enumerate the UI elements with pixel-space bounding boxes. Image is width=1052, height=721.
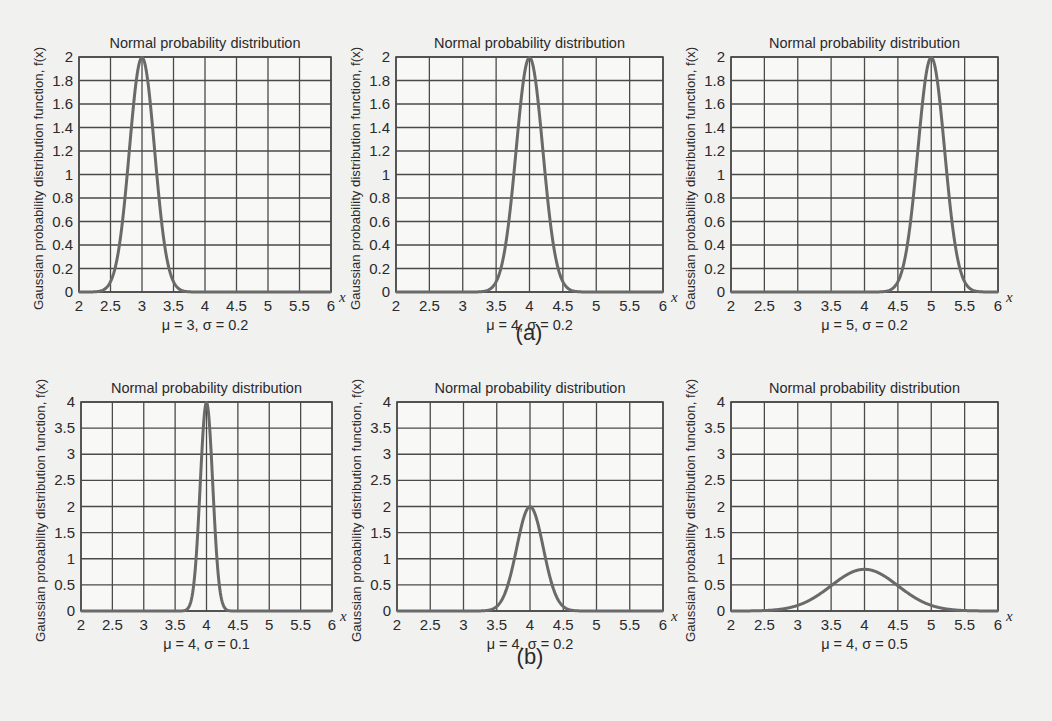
parameter-caption: μ = 5, σ = 0.2 <box>821 317 908 333</box>
y-tick-label: 1.5 <box>54 524 75 541</box>
x-tick-label: 3 <box>138 297 146 314</box>
x-tick-label: 2.5 <box>754 616 775 633</box>
y-tick-label: 1.4 <box>704 119 725 136</box>
y-tick-label: 0 <box>65 283 73 300</box>
x-tick-label: 5.5 <box>290 616 311 633</box>
y-tick-label: 0.8 <box>704 189 725 206</box>
x-tick-label: 3.5 <box>821 616 842 633</box>
x-tick-label: 4 <box>526 616 534 633</box>
y-tick-label: 1 <box>65 166 73 183</box>
y-tick-label: 0.2 <box>52 260 73 277</box>
x-axis-label: x <box>338 289 346 305</box>
x-tick-label: 2 <box>393 616 401 633</box>
y-tick-label: 1.6 <box>369 95 390 112</box>
chart-title: Normal probability distribution <box>769 380 960 396</box>
y-tick-label: 3 <box>67 445 75 462</box>
x-tick-label: 6 <box>659 616 667 633</box>
y-axis-label: Gaussian probability distribution functi… <box>33 379 48 642</box>
panel-label-a: (a) <box>516 320 543 346</box>
plots-canvas: 22.533.544.555.5600.20.40.60.811.21.41.6… <box>0 0 1052 721</box>
y-tick-label: 0.5 <box>704 576 725 593</box>
x-tick-label: 4.5 <box>887 297 908 314</box>
y-tick-label: 4 <box>67 393 75 410</box>
x-tick-label: 5.5 <box>954 297 975 314</box>
y-tick-label: 0 <box>382 283 390 300</box>
y-tick-label: 1 <box>383 550 391 567</box>
y-tick-label: 0.8 <box>52 189 73 206</box>
x-tick-label: 5 <box>592 616 600 633</box>
y-tick-label: 1 <box>67 550 75 567</box>
chart-title: Normal probability distribution <box>434 35 625 51</box>
x-tick-label: 2.5 <box>420 616 441 633</box>
y-tick-label: 0.5 <box>370 576 391 593</box>
x-tick-label: 4.5 <box>887 616 908 633</box>
chart-6: 22.533.544.555.5600.511.522.533.54xNorma… <box>683 379 1013 652</box>
x-tick-label: 3 <box>459 616 467 633</box>
y-tick-label: 0.2 <box>369 260 390 277</box>
x-tick-label: 4 <box>525 297 533 314</box>
x-tick-label: 2.5 <box>100 297 121 314</box>
y-tick-label: 2 <box>65 48 73 65</box>
chart-1: 22.533.544.555.5600.20.40.60.811.21.41.6… <box>31 35 346 333</box>
y-tick-label: 1 <box>717 166 725 183</box>
x-tick-label: 2 <box>727 616 735 633</box>
x-axis-label: x <box>670 608 678 624</box>
x-tick-label: 5 <box>265 616 273 633</box>
chart-title: Normal probability distribution <box>110 35 301 51</box>
y-tick-label: 0.6 <box>369 213 390 230</box>
y-tick-label: 1.2 <box>704 142 725 159</box>
x-tick-label: 3 <box>459 297 467 314</box>
x-tick-label: 5.5 <box>954 616 975 633</box>
y-tick-label: 0.8 <box>369 189 390 206</box>
x-tick-label: 3.5 <box>165 616 186 633</box>
x-tick-label: 3.5 <box>821 297 842 314</box>
y-tick-label: 0.6 <box>52 213 73 230</box>
chart-title: Normal probability distribution <box>111 380 302 396</box>
y-axis-label: Gaussian probability distribution functi… <box>683 47 698 310</box>
y-tick-label: 1.4 <box>52 119 73 136</box>
y-tick-label: 0 <box>717 602 725 619</box>
x-tick-label: 4 <box>860 297 868 314</box>
y-tick-label: 0.4 <box>369 236 390 253</box>
chart-title: Normal probability distribution <box>435 380 626 396</box>
y-tick-label: 1.5 <box>370 524 391 541</box>
y-tick-label: 0.6 <box>704 213 725 230</box>
x-tick-label: 5 <box>264 297 272 314</box>
x-tick-label: 5 <box>927 616 935 633</box>
y-tick-label: 0.4 <box>52 236 73 253</box>
x-tick-label: 3.5 <box>486 616 507 633</box>
x-tick-label: 3 <box>140 616 148 633</box>
y-tick-label: 1.8 <box>704 72 725 89</box>
x-tick-label: 6 <box>659 297 667 314</box>
x-tick-label: 2 <box>392 297 400 314</box>
y-tick-label: 3.5 <box>370 419 391 436</box>
x-tick-label: 3.5 <box>163 297 184 314</box>
y-tick-label: 2 <box>383 498 391 515</box>
y-tick-label: 0.4 <box>704 236 725 253</box>
figure: 22.533.544.555.5600.20.40.60.811.21.41.6… <box>0 0 1052 721</box>
y-tick-label: 0.5 <box>54 576 75 593</box>
x-tick-label: 5.5 <box>619 297 640 314</box>
x-tick-label: 6 <box>328 616 336 633</box>
y-tick-label: 1 <box>717 550 725 567</box>
y-tick-label: 1.8 <box>52 72 73 89</box>
x-tick-label: 4.5 <box>226 297 247 314</box>
x-tick-label: 3 <box>794 297 802 314</box>
chart-2: 22.533.544.555.5600.20.40.60.811.21.41.6… <box>348 35 678 333</box>
x-tick-label: 2 <box>77 616 85 633</box>
y-tick-label: 3.5 <box>704 419 725 436</box>
y-tick-label: 3 <box>383 445 391 462</box>
x-tick-label: 5.5 <box>289 297 310 314</box>
y-tick-label: 4 <box>717 393 725 410</box>
y-tick-label: 2 <box>382 48 390 65</box>
x-tick-label: 6 <box>994 297 1002 314</box>
y-tick-label: 3 <box>717 445 725 462</box>
y-tick-label: 4 <box>383 393 391 410</box>
y-axis-label: Gaussian probability distribution functi… <box>349 379 364 642</box>
chart-5: 22.533.544.555.5600.511.522.533.54xNorma… <box>349 379 678 652</box>
y-tick-label: 0 <box>717 283 725 300</box>
chart-4: 22.533.544.555.5600.511.522.533.54xNorma… <box>33 379 347 652</box>
parameter-caption: μ = 3, σ = 0.2 <box>162 317 249 333</box>
y-tick-label: 1.6 <box>704 95 725 112</box>
y-tick-label: 2.5 <box>370 471 391 488</box>
